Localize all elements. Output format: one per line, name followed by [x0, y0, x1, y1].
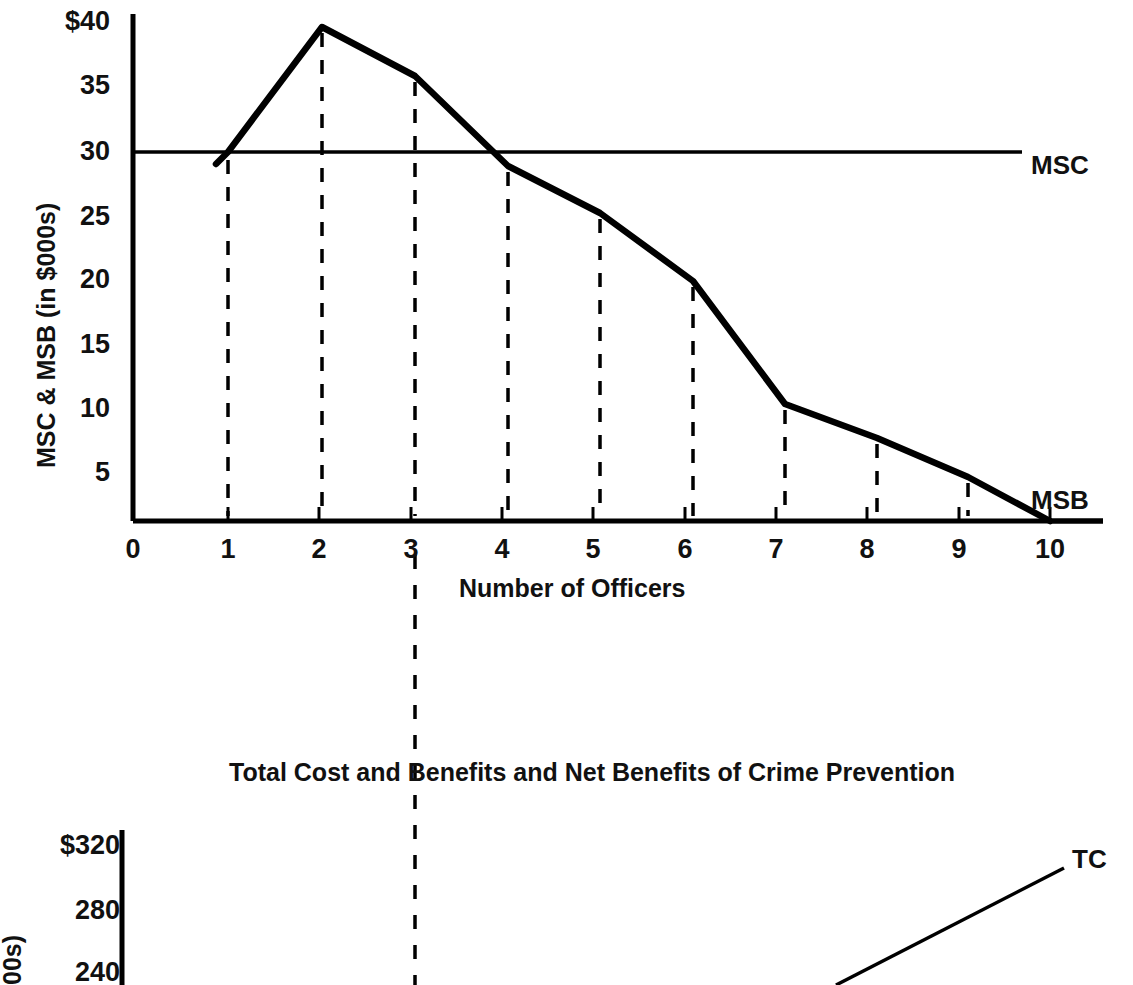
upper-droplines — [228, 33, 968, 516]
msc-series-label: MSC — [1031, 152, 1089, 178]
upper-xtick-5: 5 — [563, 536, 623, 563]
upper-ytick-35: 35 — [0, 72, 110, 99]
lower-ytick-280: 280 — [0, 897, 120, 924]
tc-series-label: TC — [1072, 846, 1107, 872]
lower-ytick-320: $320 — [0, 832, 120, 859]
upper-xtick-0: 0 — [103, 536, 163, 563]
upper-xtick-8: 8 — [837, 536, 897, 563]
upper-xtick-2: 2 — [289, 536, 349, 563]
upper-xtick-4: 4 — [472, 536, 532, 563]
upper-y-axis-title: MSC & MSB (in $000s) — [34, 203, 59, 468]
lower-chart-title: Total Cost and Benefits and Net Benefits… — [229, 760, 955, 785]
upper-xtick-1: 1 — [198, 536, 258, 563]
upper-xtick-7: 7 — [746, 536, 806, 563]
chart-canvas — [0, 0, 1133, 985]
figure-container: $40 35 30 25 20 15 10 5 0 1 2 3 4 5 6 7 … — [0, 0, 1133, 985]
msb-series-label: MSB — [1031, 487, 1089, 513]
upper-x-axis-title: Number of Officers — [459, 576, 685, 601]
lower-y-axis-title: 00s) — [0, 935, 25, 985]
upper-ytick-30: 30 — [0, 138, 110, 165]
upper-xtick-6: 6 — [655, 536, 715, 563]
tc-line — [836, 868, 1064, 985]
upper-xtick-10: 10 — [1020, 536, 1080, 563]
upper-ytick-40: $40 — [0, 8, 110, 35]
msb-curve — [216, 27, 1050, 521]
upper-xtick-3: 3 — [381, 536, 441, 563]
upper-xtick-9: 9 — [929, 536, 989, 563]
